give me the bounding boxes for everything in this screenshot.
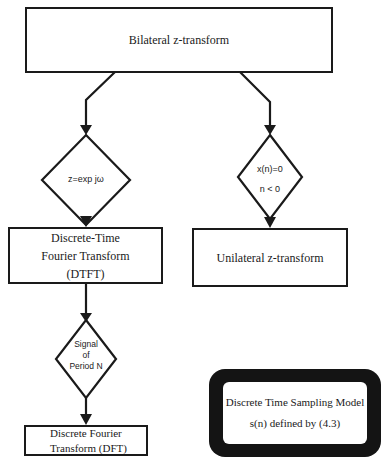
unilateral-z-transform-box: Unilateral z-transform <box>192 228 348 287</box>
decision-label-line1: x(n)=0 <box>238 160 302 180</box>
sampling-model-line2: s(n) defined by (4.3) <box>250 413 340 434</box>
decision-label-period: Signal of Period N <box>56 339 116 372</box>
arrow-top-to-left-decision <box>86 72 115 126</box>
sampling-model-line1: Discrete Time Sampling Model <box>226 392 364 413</box>
dtft-line2: Fourier Transform <box>41 247 129 265</box>
period-line3: Period N <box>56 361 116 372</box>
sampling-model-box: Discrete Time Sampling Model s(n) define… <box>209 369 381 457</box>
dft-line1: Discrete Fourier <box>50 426 122 441</box>
period-line1: Signal <box>56 339 116 350</box>
bilateral-z-transform-label: Bilateral z-transform <box>129 31 229 49</box>
dtft-line1: Discrete-Time <box>51 229 120 247</box>
arrow-top-to-right-decision <box>240 72 270 126</box>
sampling-model-inner: Discrete Time Sampling Model s(n) define… <box>223 382 367 444</box>
dtft-box: Discrete-Time Fourier Transform (DTFT) <box>8 227 163 284</box>
arrowhead-icon <box>264 217 276 228</box>
decision-label-line2: n < 0 <box>238 180 302 200</box>
unilateral-z-transform-label: Unilateral z-transform <box>217 249 324 267</box>
arrowhead-icon <box>80 414 92 425</box>
period-line2: of <box>56 350 116 361</box>
dtft-line3: (DTFT) <box>67 265 105 283</box>
decision-label-causal: x(n)=0 n < 0 <box>238 160 302 200</box>
decision-label-z-exp: z=exp jω <box>46 174 126 184</box>
dft-box: Discrete Fourier Transform (DFT) <box>24 425 148 456</box>
bilateral-z-transform-box: Bilateral z-transform <box>25 7 333 73</box>
dft-line2: Transform (DFT) <box>50 441 127 456</box>
